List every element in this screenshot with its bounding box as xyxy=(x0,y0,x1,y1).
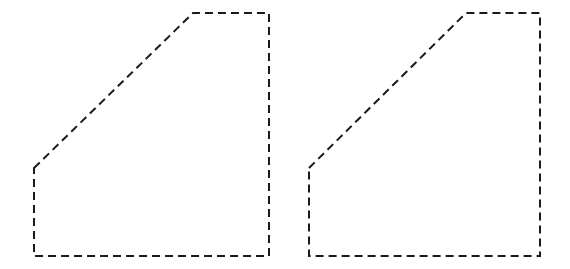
canvas-background xyxy=(0,0,570,269)
figure-canvas xyxy=(0,0,570,269)
shapes-figure xyxy=(0,0,570,269)
